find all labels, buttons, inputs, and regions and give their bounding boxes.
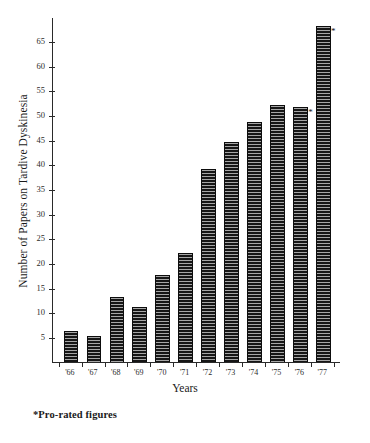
y-axis-tick-label: 30 xyxy=(37,209,46,220)
pro-rated-asterisk: * xyxy=(331,27,336,36)
bar xyxy=(64,331,79,362)
plot-area: 5101520253035404550556065 '66'67'68'69'7… xyxy=(52,18,340,363)
x-axis-tick-label: '75 xyxy=(265,368,288,378)
y-axis-tick: 5 xyxy=(49,338,55,339)
x-axis-tick-label: '67 xyxy=(81,368,104,378)
x-axis-tick xyxy=(173,363,174,367)
y-axis-tick-label: 60 xyxy=(37,61,46,72)
y-axis-tick: 25 xyxy=(49,239,55,240)
x-axis-tick-label: '72 xyxy=(196,368,219,378)
y-axis-tick-label: 5 xyxy=(41,332,45,343)
y-axis-tick: 55 xyxy=(49,91,55,92)
x-axis-tick-label: '76 xyxy=(288,368,311,378)
x-axis-tick xyxy=(196,363,197,367)
bar xyxy=(87,336,102,362)
y-axis-tick-label: 50 xyxy=(37,110,46,121)
bar xyxy=(224,142,239,362)
x-axis-tick xyxy=(82,363,83,367)
y-axis-tick: 40 xyxy=(49,165,55,166)
x-axis-tick xyxy=(311,363,312,367)
bar xyxy=(110,297,125,362)
x-axis-tick-label: '74 xyxy=(242,368,265,378)
y-axis-tick-label: 25 xyxy=(37,233,46,244)
x-axis-tick xyxy=(334,363,335,367)
y-axis-tick-label: 40 xyxy=(37,159,46,170)
y-axis-tick-label: 35 xyxy=(37,184,46,195)
x-axis-tick-label: '66 xyxy=(58,368,81,378)
x-axis-tick xyxy=(59,363,60,367)
y-axis-tick: 60 xyxy=(49,67,55,68)
chart-footnote: *Pro-rated figures xyxy=(33,409,117,420)
x-axis-tick-label: '69 xyxy=(127,368,150,378)
y-axis-tick-label: 20 xyxy=(37,258,46,269)
y-axis-tick-label: 10 xyxy=(37,307,46,318)
x-axis-tick-label: '70 xyxy=(150,368,173,378)
y-axis-tick-label: 55 xyxy=(37,85,46,96)
x-axis-tick xyxy=(219,363,220,367)
x-axis-tick xyxy=(288,363,289,367)
y-axis-title: Number of Papers on Tardive Dyskinesia xyxy=(17,66,29,316)
y-axis-tick: 20 xyxy=(49,264,55,265)
bar xyxy=(247,122,262,362)
x-axis-tick-label: '71 xyxy=(173,368,196,378)
y-axis-tick: 50 xyxy=(49,116,55,117)
bar xyxy=(270,105,285,362)
x-axis-tick-label: '77 xyxy=(311,368,334,378)
y-axis-tick: 15 xyxy=(49,289,55,290)
x-axis-tick xyxy=(242,363,243,367)
chart-figure: Number of Papers on Tardive Dyskinesia 5… xyxy=(0,0,370,443)
y-axis-tick-label: 45 xyxy=(37,135,46,146)
y-axis-tick: 10 xyxy=(49,313,55,314)
y-axis-tick: 35 xyxy=(49,190,55,191)
x-axis-tick xyxy=(127,363,128,367)
x-axis-tick-label: '68 xyxy=(104,368,127,378)
y-axis-tick: 65 xyxy=(49,42,55,43)
x-axis-tick xyxy=(150,363,151,367)
x-axis-tick-label: '73 xyxy=(219,368,242,378)
y-axis-tick: 30 xyxy=(49,215,55,216)
x-axis-title: Years xyxy=(0,382,370,394)
y-axis-tick: 45 xyxy=(49,141,55,142)
bar xyxy=(178,253,193,362)
bar xyxy=(293,107,308,362)
bar xyxy=(316,26,331,362)
y-axis-tick-label: 65 xyxy=(37,36,46,47)
x-axis-tick xyxy=(105,363,106,367)
bar xyxy=(155,275,170,362)
y-axis-tick-label: 15 xyxy=(37,283,46,294)
pro-rated-asterisk: * xyxy=(308,108,313,117)
bar xyxy=(132,307,147,362)
bar xyxy=(201,169,216,362)
x-axis-tick xyxy=(265,363,266,367)
